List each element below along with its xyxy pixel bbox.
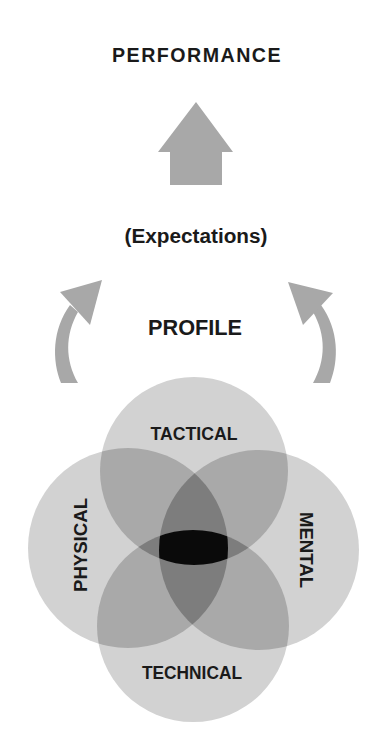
curved-arrow-right-icon bbox=[288, 282, 336, 383]
mental-label: MENTAL bbox=[296, 512, 316, 588]
profile-label: PROFILE bbox=[148, 315, 242, 340]
physical-label: PHYSICAL bbox=[71, 498, 91, 592]
expectations-label: (Expectations) bbox=[125, 225, 268, 247]
up-arrow-icon bbox=[158, 102, 233, 185]
curved-arrow-left-icon bbox=[55, 280, 102, 383]
tactical-label: TACTICAL bbox=[151, 424, 238, 444]
technical-label: TECHNICAL bbox=[142, 663, 242, 683]
performance-profile-diagram: PERFORMANCE (Expectations) PROFILE bbox=[0, 0, 379, 743]
performance-title: PERFORMANCE bbox=[112, 44, 282, 66]
